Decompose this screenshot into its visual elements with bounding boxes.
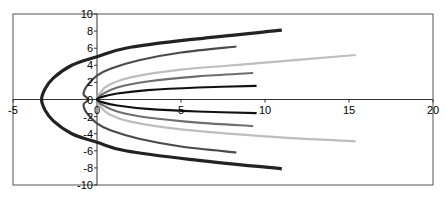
y-tick-label: -8 bbox=[83, 162, 93, 174]
series-line-3 bbox=[97, 55, 356, 141]
y-tick-label: 8 bbox=[87, 25, 93, 37]
y-tick-label: 2 bbox=[87, 76, 93, 88]
y-tick-label: -4 bbox=[83, 128, 93, 140]
x-tick-label: 10 bbox=[259, 104, 271, 116]
x-tick-label: 5 bbox=[178, 104, 184, 116]
y-tick-label: 4 bbox=[87, 59, 93, 71]
x-tick-label: -5 bbox=[8, 104, 18, 116]
x-tick-label: 20 bbox=[427, 104, 439, 116]
y-tick-label: 0 bbox=[87, 94, 93, 106]
x-tick-label: 0 bbox=[94, 104, 100, 116]
x-tick-label: 15 bbox=[343, 104, 355, 116]
chart: -505101520-10-8-6-4-20246810 bbox=[0, 0, 446, 198]
y-tick-label: -2 bbox=[83, 111, 93, 123]
y-tick-label: -6 bbox=[83, 145, 93, 157]
y-tick-label: 6 bbox=[87, 42, 93, 54]
y-tick-label: -10 bbox=[77, 179, 93, 191]
axes bbox=[13, 14, 433, 185]
y-tick-label: 10 bbox=[81, 8, 93, 20]
